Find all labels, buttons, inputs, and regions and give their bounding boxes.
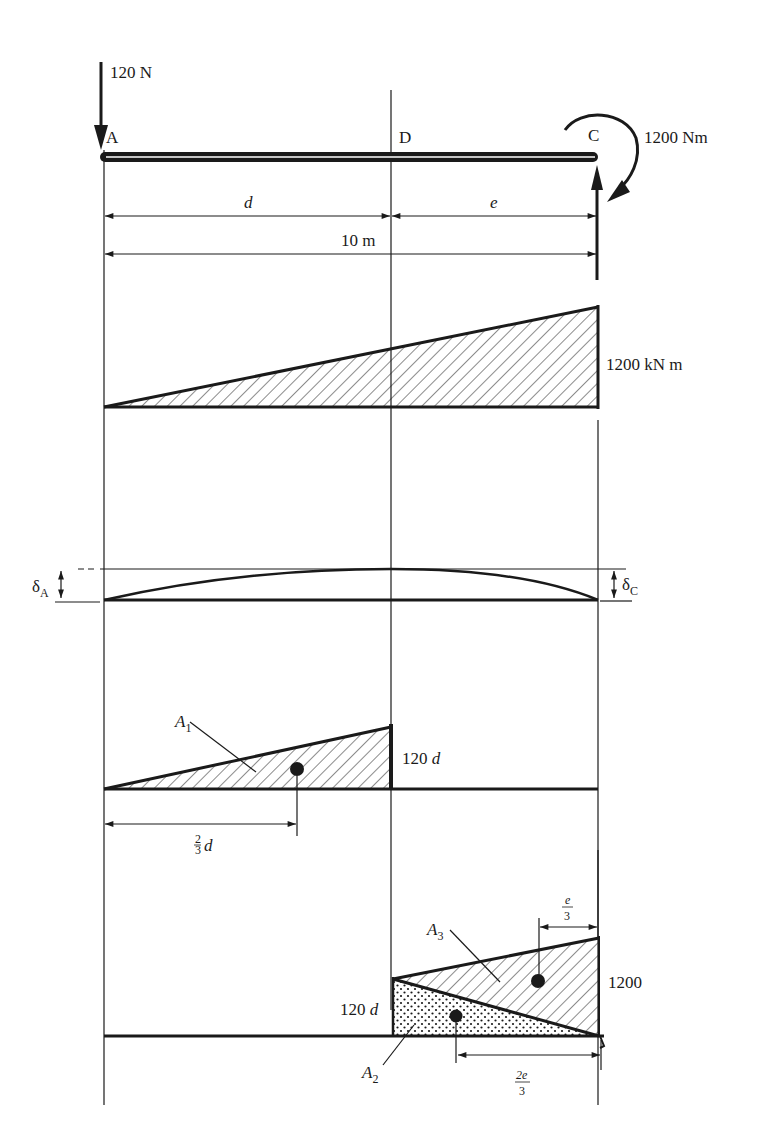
deflection-diagram: δA δC bbox=[32, 569, 638, 602]
point-c-label: C bbox=[588, 126, 599, 145]
a2-centroid-dot bbox=[450, 1010, 463, 1023]
a2-left-height-label: 120 d bbox=[340, 1000, 379, 1019]
a1-height-label: 120 d bbox=[402, 749, 441, 768]
e3-num: e bbox=[565, 893, 571, 907]
a3-right-height-label: 1200 bbox=[608, 973, 642, 992]
beam-section: 120 N A D C 1200 Nm bbox=[94, 62, 708, 280]
a1-centroid-den: 3 bbox=[195, 843, 201, 857]
a1-centroid-dot bbox=[290, 762, 304, 776]
a1-centroid-var: d bbox=[204, 836, 213, 855]
area-a1-diagram: A1 120 d 2 3 d bbox=[104, 712, 598, 857]
beam-moment-area-diagram: 120 N A D C 1200 Nm d e 10 m bbox=[0, 0, 760, 1141]
e23-num: 2e bbox=[516, 1068, 528, 1082]
dimension-d-label: d bbox=[244, 193, 253, 212]
point-d-label: D bbox=[399, 128, 411, 147]
delta-c-label: δC bbox=[622, 575, 638, 598]
point-a-label: A bbox=[106, 128, 119, 147]
span-label: 10 m bbox=[341, 231, 375, 250]
a1-label: A1 bbox=[174, 712, 191, 735]
e23-den: 3 bbox=[519, 1084, 525, 1098]
a3-label: A3 bbox=[426, 920, 443, 943]
moment-label: 1200 Nm bbox=[644, 128, 708, 147]
a2-label: A2 bbox=[361, 1063, 378, 1086]
reaction-arrow-icon bbox=[591, 165, 603, 280]
area-a2-a3-diagram: A3 A2 120 d 1200 e 3 2e 3 bbox=[104, 850, 642, 1098]
bending-moment-value: 1200 kN m bbox=[606, 355, 683, 374]
beam bbox=[100, 152, 598, 162]
bending-moment-diagram: 1200 kN m bbox=[104, 305, 683, 409]
point-load-label: 120 N bbox=[110, 63, 152, 82]
dimension-e-label: e bbox=[490, 193, 498, 212]
a3-centroid-dot bbox=[531, 974, 545, 988]
dimension-lines: d e 10 m bbox=[105, 193, 596, 254]
delta-a-label: δA bbox=[32, 577, 49, 600]
e3-den: 3 bbox=[564, 909, 570, 923]
